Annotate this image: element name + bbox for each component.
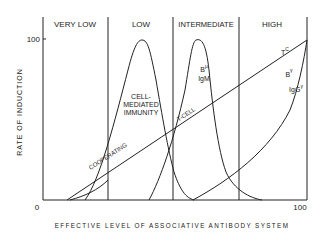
annotation-cmi-line1: CELL- — [131, 93, 152, 100]
x-tick-label-100: 100 — [293, 203, 307, 212]
region-label-intermediate: INTERMEDIATE — [178, 20, 233, 29]
region-label-high: HIGH — [262, 20, 282, 29]
y-axis-title: RATE OF INDUCTION — [16, 68, 23, 156]
x-tick-label-0: 0 — [35, 203, 40, 212]
annotation-t-c: TC — [281, 46, 289, 56]
curve-t-cell-cooperating — [67, 40, 307, 200]
region-label-very-low: VERY LOW — [54, 20, 96, 29]
annotation-t-cell: T-CELL — [176, 106, 197, 122]
annotation-cmi-line2: MEDIATED — [123, 101, 159, 108]
y-tick-label-100: 100 — [27, 35, 41, 44]
annotation-igg: IgGγ — [289, 83, 303, 94]
annotation-b-gamma: Bγ — [285, 67, 293, 78]
curve-t-c-lower — [70, 180, 108, 200]
chart: VERY LOW LOW INTERMEDIATE HIGH 100 0 100… — [0, 0, 320, 242]
annotation-igm: IgM — [198, 75, 210, 83]
curve-b-gamma-igg — [193, 40, 307, 200]
annotation-cmi-line3: IMMUNITY — [124, 109, 159, 116]
region-label-low: LOW — [132, 20, 151, 29]
annotation-b-mu: Bμ — [200, 63, 208, 73]
x-axis-title: EFFECTIVE LEVEL OF ASSOCIATIVE ANTIBODY … — [55, 222, 290, 229]
